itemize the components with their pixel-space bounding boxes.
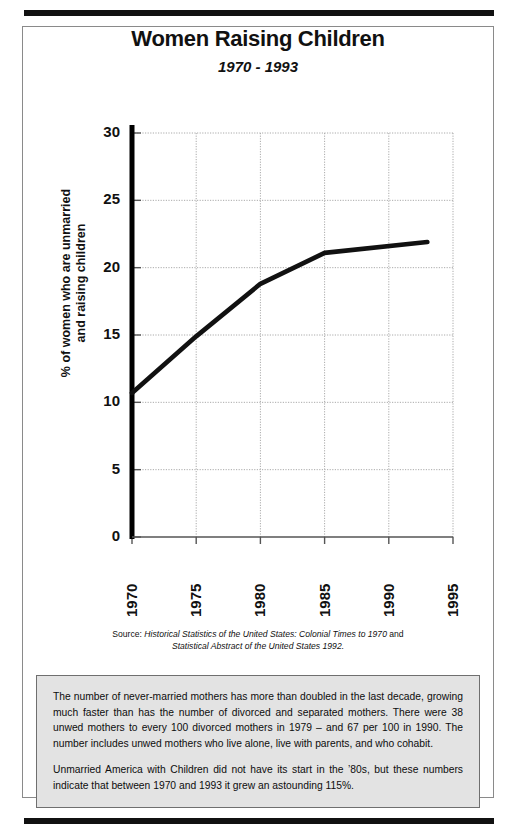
x-tick-label-1975: 1975 [187, 547, 204, 617]
source-prefix: Source: [112, 629, 144, 639]
note-paragraph-2: Unmarried America with Children did not … [53, 762, 463, 793]
x-axis-ticks [132, 537, 453, 544]
note-box: The number of never-married mothers has … [36, 675, 480, 808]
y-tick-label-5: 5 [80, 460, 120, 477]
y-tick-label-15: 15 [80, 325, 120, 342]
horizontal-gridlines [132, 133, 453, 470]
x-tick-label-1985: 1985 [316, 547, 333, 617]
source-title-2: Statistical Abstract of the United State… [172, 641, 344, 651]
page-canvas: Women Raising Children 1970 - 1993 % of … [0, 0, 516, 838]
source-suffix: and [387, 629, 404, 639]
y-tick-label-20: 20 [80, 258, 120, 275]
source-citation: Source: Historical Statistics of the Uni… [58, 628, 458, 652]
x-tick-label-1990: 1990 [380, 547, 397, 617]
source-title-1: Historical Statistics of the United Stat… [144, 629, 387, 639]
y-tick-label-10: 10 [80, 392, 120, 409]
x-tick-label-1980: 1980 [251, 547, 268, 617]
note-paragraph-1: The number of never-married mothers has … [53, 689, 463, 751]
x-tick-label-1995: 1995 [444, 547, 461, 617]
data-series-line [132, 242, 427, 393]
y-tick-label-0: 0 [80, 527, 120, 544]
y-tick-label-30: 30 [80, 123, 120, 140]
x-tick-label-1970: 1970 [123, 547, 140, 617]
y-tick-label-25: 25 [80, 190, 120, 207]
